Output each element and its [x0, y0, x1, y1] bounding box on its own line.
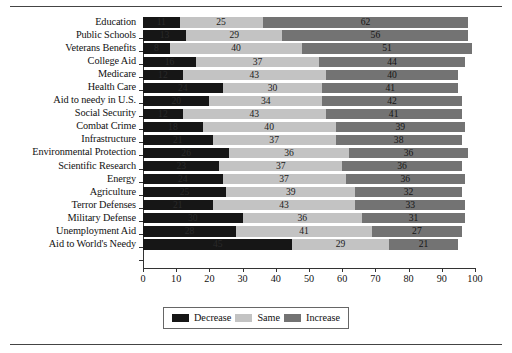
x-axis-tick-label: 10 [171, 273, 181, 285]
category-label: Infrastructure [0, 132, 136, 145]
bar-segment-same: 34 [209, 96, 322, 106]
category-label: Military Defense [0, 211, 136, 224]
bar-value-label: 21 [389, 239, 459, 249]
y-axis-tick [139, 169, 143, 170]
bar-segment-same: 43 [183, 70, 326, 80]
x-axis-tick [409, 268, 410, 272]
chart-rows: Education112562Public Schools132956Veter… [0, 16, 512, 251]
bar-segment-decrease: 11 [143, 17, 180, 27]
x-axis-tick [309, 268, 310, 272]
legend-item-increase: Increase [284, 312, 340, 324]
x-axis: 0102030405060708090100 [143, 268, 475, 294]
chart-row: Aid to World's Needy452921 [0, 238, 512, 251]
y-axis-tick [139, 77, 143, 78]
y-axis-tick [139, 195, 143, 196]
y-axis-tick [139, 247, 143, 248]
bottom-divider-rule [10, 344, 502, 345]
legend-item-same: Same [235, 312, 280, 324]
bar-segment-decrease: 21 [143, 135, 213, 145]
legend-label: Decrease [194, 312, 231, 324]
bar-value-label: 25 [180, 17, 263, 27]
x-axis-tick [375, 268, 376, 272]
x-axis-tick [442, 268, 443, 272]
bar-segment-same: 43 [213, 200, 356, 210]
bar-value-label: 23 [143, 161, 219, 171]
category-label: Scientific Research [0, 159, 136, 172]
category-label: Environmental Protection [0, 145, 136, 158]
bar-segment-decrease: 24 [143, 83, 223, 93]
category-label: Aid to World's Needy [0, 237, 136, 250]
bar-segment-increase: 36 [342, 161, 462, 171]
stacked-bar: 243736 [143, 174, 475, 184]
x-axis-tick [342, 268, 343, 272]
stacked-bar: 203442 [143, 96, 475, 106]
bar-value-label: 13 [143, 30, 186, 40]
bar-segment-decrease: 45 [143, 239, 292, 249]
category-label: Unemployment Aid [0, 224, 136, 237]
bar-segment-decrease: 13 [143, 30, 186, 40]
bar-segment-increase: 41 [326, 109, 462, 119]
y-axis-tick [139, 182, 143, 183]
bar-segment-same: 36 [229, 148, 349, 158]
bar-value-label: 42 [322, 96, 461, 106]
bar-value-label: 29 [186, 30, 282, 40]
bar-value-label: 12 [143, 70, 183, 80]
x-axis-tick-label: 30 [238, 273, 248, 285]
category-label: Agriculture [0, 185, 136, 198]
y-axis-tick [139, 221, 143, 222]
bar-segment-decrease: 16 [143, 57, 196, 67]
bar-value-label: 41 [326, 109, 462, 119]
bar-value-label: 26 [143, 148, 229, 158]
bar-value-label: 30 [143, 213, 243, 223]
y-axis-tick [139, 90, 143, 91]
stacked-bar: 214333 [143, 200, 475, 210]
bar-segment-decrease: 8 [143, 43, 170, 53]
bar-value-label: 32 [355, 187, 461, 197]
legend-label: Same [257, 312, 280, 324]
stacked-bar: 84051 [143, 43, 475, 53]
bar-segment-same: 39 [226, 187, 355, 197]
bar-segment-same: 37 [219, 161, 342, 171]
top-divider-rule [10, 6, 502, 7]
legend-swatch-icon [235, 314, 252, 322]
bar-value-label: 29 [292, 239, 388, 249]
bar-segment-decrease: 20 [143, 96, 209, 106]
bar-segment-decrease: 18 [143, 122, 203, 132]
bar-value-label: 36 [342, 161, 462, 171]
y-axis-tick [139, 142, 143, 143]
bar-segment-increase: 51 [302, 43, 471, 53]
x-axis-tick [143, 268, 144, 272]
bar-value-label: 37 [223, 174, 346, 184]
y-axis-tick [139, 38, 143, 39]
bar-segment-same: 37 [196, 57, 319, 67]
x-axis-tick [176, 268, 177, 272]
bar-segment-increase: 36 [349, 148, 469, 158]
bar-segment-increase: 36 [346, 174, 466, 184]
bar-value-label: 24 [143, 83, 223, 93]
category-label: Health Care [0, 80, 136, 93]
bar-value-label: 56 [282, 30, 468, 40]
bar-value-label: 20 [143, 96, 209, 106]
bar-value-label: 8 [143, 43, 170, 53]
x-axis-tick [475, 268, 476, 272]
bar-segment-same: 37 [223, 174, 346, 184]
bar-segment-same: 25 [180, 17, 263, 27]
bar-value-label: 41 [322, 83, 458, 93]
x-axis-tick-label: 80 [404, 273, 414, 285]
bar-segment-increase: 42 [322, 96, 461, 106]
x-axis-tick-label: 100 [467, 273, 482, 285]
category-label: Education [0, 15, 136, 28]
bar-segment-decrease: 23 [143, 161, 219, 171]
stacked-bar-chart: Education112562Public Schools132956Veter… [0, 16, 512, 276]
y-axis-tick [139, 103, 143, 104]
y-axis-tick [139, 129, 143, 130]
legend-swatch-icon [284, 314, 301, 322]
bar-segment-same: 41 [236, 226, 372, 236]
bar-value-label: 43 [213, 200, 356, 210]
category-label: Public Schools [0, 28, 136, 41]
bar-value-label: 39 [336, 122, 465, 132]
bar-value-label: 51 [302, 43, 471, 53]
x-axis-tick-label: 40 [271, 273, 281, 285]
x-axis-tick-label: 0 [140, 273, 145, 285]
category-label: Social Security [0, 106, 136, 119]
